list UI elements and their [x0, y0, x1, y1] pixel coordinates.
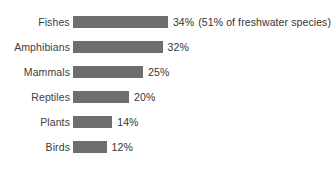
- value-label: 34%: [173, 16, 194, 28]
- chart-row: Fishes34%(51% of freshwater species): [0, 11, 330, 33]
- category-label: Fishes: [0, 16, 70, 28]
- value-label: 32%: [168, 41, 189, 53]
- category-label: Plants: [0, 116, 70, 128]
- bar: [73, 66, 143, 78]
- bar-container: 20%: [73, 91, 330, 103]
- category-label: Reptiles: [0, 91, 70, 103]
- value-label: 12%: [112, 141, 133, 153]
- value-label: 20%: [134, 91, 155, 103]
- category-label: Mammals: [0, 66, 70, 78]
- value-label: 25%: [148, 66, 169, 78]
- chart-row: Birds12%: [0, 136, 330, 158]
- bar-container: 32%: [73, 41, 330, 53]
- category-label: Amphibians: [0, 41, 70, 53]
- bar: [73, 141, 107, 153]
- chart-row: Mammals25%: [0, 61, 330, 83]
- bar-container: 25%: [73, 66, 330, 78]
- bar-container: 12%: [73, 141, 330, 153]
- chart-row: Amphibians32%: [0, 36, 330, 58]
- bar-container: 34%(51% of freshwater species): [73, 16, 330, 28]
- bar: [73, 91, 129, 103]
- category-label: Birds: [0, 141, 70, 153]
- bar-container: 14%: [73, 116, 330, 128]
- chart-row: Reptiles20%: [0, 86, 330, 108]
- bar: [73, 41, 163, 53]
- bar: [73, 16, 168, 28]
- chart-row: Plants14%: [0, 111, 330, 133]
- value-label: 14%: [117, 116, 138, 128]
- bar: [73, 116, 112, 128]
- annotation-label: (51% of freshwater species): [198, 16, 331, 28]
